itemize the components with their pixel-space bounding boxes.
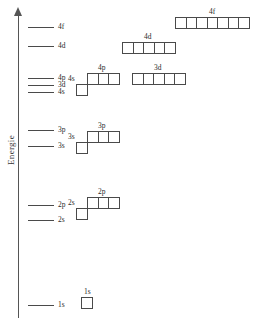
energy-level-2p	[28, 205, 54, 206]
orbital-group-label-3s: 3s	[68, 133, 75, 141]
orbital-group-4f	[175, 17, 250, 29]
energy-level-label-3s: 3s	[58, 142, 65, 150]
energy-axis-line	[18, 14, 19, 318]
energy-level-label-4s: 4s	[58, 88, 65, 96]
orbital-group-label-2s: 2s	[68, 199, 75, 207]
orbital-box-row	[76, 208, 88, 220]
orbital-box-row	[122, 42, 176, 54]
energy-axis-label: Energie	[6, 120, 16, 180]
orbital-group-4s	[76, 84, 88, 96]
energy-level-label-4f: 4f	[58, 23, 64, 31]
orbital-box[interactable]	[76, 142, 88, 154]
energy-level-4f	[28, 27, 54, 28]
orbital-box-row	[175, 17, 250, 29]
orbital-box-row	[87, 131, 120, 143]
orbital-box[interactable]	[108, 131, 120, 143]
energy-level-3d	[28, 85, 54, 86]
energy-level-4p	[28, 78, 54, 79]
energy-level-4s	[28, 92, 54, 93]
orbital-group-label-2p: 2p	[98, 188, 106, 196]
orbital-box[interactable]	[76, 208, 88, 220]
orbital-box-row	[81, 297, 93, 309]
energy-level-1s	[28, 305, 54, 306]
orbital-energy-diagram: Energie 4f4d4p3d4s3p3s2p2s1s 4f4d3d4p4s3…	[0, 0, 261, 330]
orbital-box[interactable]	[108, 73, 120, 85]
orbital-box[interactable]	[164, 42, 176, 54]
energy-level-3s	[28, 146, 54, 147]
orbital-group-3d	[132, 73, 186, 85]
energy-level-3p	[28, 130, 54, 131]
energy-level-label-4d: 4d	[58, 42, 66, 50]
orbital-group-label-3p: 3p	[98, 122, 106, 130]
energy-level-4d	[28, 46, 54, 47]
energy-level-label-3p: 3p	[58, 126, 66, 134]
orbital-group-3p	[87, 131, 120, 143]
energy-level-label-2p: 2p	[58, 201, 66, 209]
orbital-box-row	[76, 84, 88, 96]
orbital-box[interactable]	[174, 73, 186, 85]
orbital-group-label-1s: 1s	[84, 288, 91, 296]
orbital-box-row	[76, 142, 88, 154]
orbital-box[interactable]	[81, 297, 93, 309]
energy-level-label-1s: 1s	[58, 301, 65, 309]
orbital-box[interactable]	[76, 84, 88, 96]
orbital-box[interactable]	[108, 197, 120, 209]
orbital-group-2p	[87, 197, 120, 209]
orbital-group-label-4d: 4d	[144, 33, 152, 41]
energy-level-label-2s: 2s	[58, 216, 65, 224]
orbital-group-label-3d: 3d	[154, 64, 162, 72]
orbital-group-3s	[76, 142, 88, 154]
orbital-group-label-4p: 4p	[98, 64, 106, 72]
energy-level-2s	[28, 220, 54, 221]
orbital-group-4p	[87, 73, 120, 85]
orbital-box-row	[87, 73, 120, 85]
orbital-box[interactable]	[238, 17, 250, 29]
orbital-box-row	[87, 197, 120, 209]
orbital-group-1s	[81, 297, 93, 309]
orbital-group-2s	[76, 208, 88, 220]
orbital-box-row	[132, 73, 186, 85]
orbital-group-4d	[122, 42, 176, 54]
orbital-group-label-4s: 4s	[68, 75, 75, 83]
orbital-group-label-4f: 4f	[209, 8, 215, 16]
